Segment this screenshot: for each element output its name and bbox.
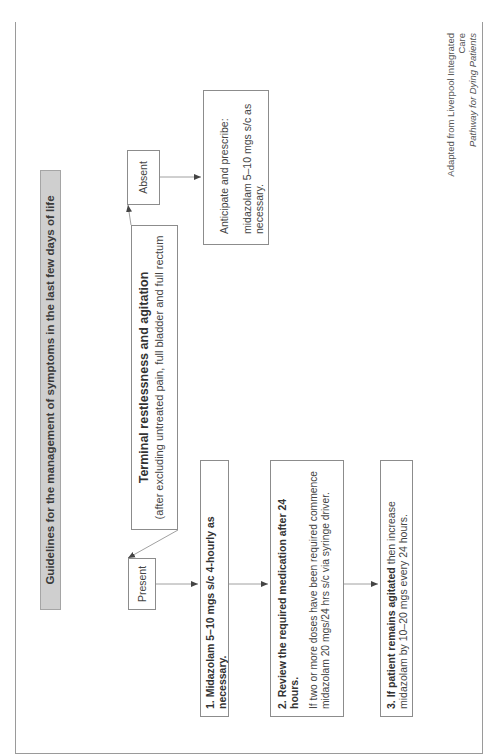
terminal-restlessness-box: Terminal restlessness and agitation (aft… (131, 225, 178, 530)
terminal-heading: Terminal restlessness and agitation (137, 226, 152, 529)
anticipate-line1: Anticipate and prescribe: (218, 97, 230, 234)
step1-box: 1. Midazolam 5–10 mgs s/c 4-hourly as ne… (200, 460, 229, 717)
flowchart-canvas: Guidelines for the management of symptom… (0, 0, 496, 754)
terminal-subheading: (after excluding untreated pain, full bl… (152, 226, 166, 529)
present-box: Present (128, 558, 156, 610)
arrow-terminal-to-present (128, 530, 178, 558)
anticipate-box: Anticipate and prescribe: midazolam 5–10… (203, 90, 269, 245)
attribution-line2: Pathway for Dying Patients (467, 33, 478, 185)
step2-box: 2. Review the required medication after … (270, 460, 344, 717)
step2-heading: 2. Review the required medication after … (276, 467, 300, 709)
attribution-line1: Adapted from Liverpool Integrated Care (445, 33, 467, 185)
step2-body: If two or more doses have been required … (308, 467, 332, 709)
step3-bold: 3. If patient remains agitated (385, 567, 397, 709)
arrow-terminal-to-absent (128, 205, 131, 225)
attribution: Adapted from Liverpool Integrated Care P… (445, 33, 478, 185)
step3-box: 3. If patient remains agitated then incr… (380, 460, 413, 717)
absent-box: Absent (127, 150, 160, 205)
anticipate-line2: midazolam 5–10 mgs s/c as necessary. (241, 97, 265, 234)
